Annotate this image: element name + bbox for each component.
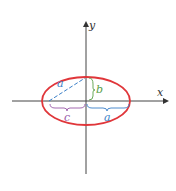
label-a-hyp: a: [57, 77, 64, 90]
diagram-canvas: y x a b c a: [0, 0, 176, 191]
label-a: a: [104, 111, 111, 124]
ellipse-diagram: y x a b c a: [0, 0, 176, 191]
b-brace: [89, 78, 95, 100]
x-axis-label: x: [157, 86, 164, 99]
focus-to-vertex-line: [49, 78, 85, 101]
a-brace: [87, 104, 129, 111]
label-b: b: [96, 83, 103, 96]
c-brace: [50, 104, 85, 111]
y-axis-label: y: [88, 19, 96, 32]
label-c: c: [64, 111, 70, 124]
